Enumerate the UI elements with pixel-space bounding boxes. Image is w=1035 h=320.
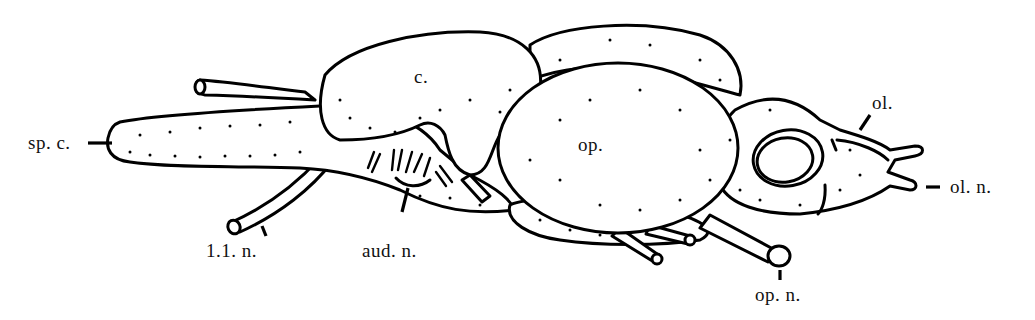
label-auditory-nerve: aud. n. <box>362 240 417 262</box>
optic-nerve <box>700 215 790 266</box>
label-lateral-line-nerve: 1.1. n. <box>206 240 257 262</box>
optic-lobe <box>498 63 738 233</box>
label-olfactory-nerve: ol. n. <box>950 176 992 198</box>
label-olfactory-lobe: ol. <box>872 92 893 114</box>
label-spinal-cord: sp. c. <box>28 132 71 154</box>
dorsal-nerve-tube <box>195 80 315 100</box>
label-optic-nerve: op. n. <box>755 284 801 306</box>
label-cerebellum: c. <box>414 66 428 88</box>
brain-diagram <box>0 0 1035 320</box>
label-optic-lobe: op. <box>578 134 603 156</box>
